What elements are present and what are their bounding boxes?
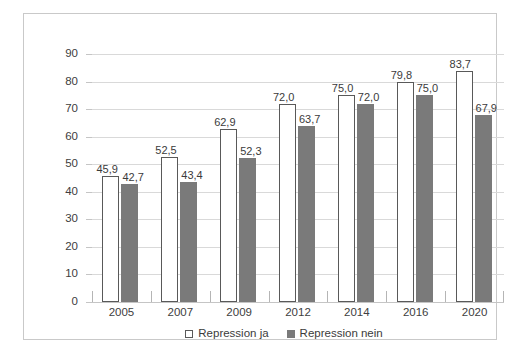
y-axis-tick-label: 60 bbox=[16, 131, 86, 143]
bar-repression-nein[interactable] bbox=[239, 158, 256, 302]
bar-value-label: 79,8 bbox=[391, 70, 412, 81]
chart-legend: Repression jaRepression nein bbox=[47, 327, 520, 340]
bar-value-label: 43,4 bbox=[181, 170, 202, 181]
bar-repression-ja[interactable] bbox=[397, 82, 414, 302]
bar-repression-nein[interactable] bbox=[416, 95, 433, 302]
x-axis-tickmark bbox=[210, 291, 211, 302]
y-tickmark bbox=[86, 302, 92, 303]
bar-repression-ja[interactable] bbox=[338, 95, 355, 302]
y-axis-tick-label: 10 bbox=[16, 269, 86, 281]
legend-label: Repression ja bbox=[198, 327, 268, 340]
y-axis-tick-label: 40 bbox=[16, 186, 86, 198]
bar-repression-ja[interactable] bbox=[279, 104, 296, 302]
bar-value-label: 63,7 bbox=[299, 114, 320, 125]
x-axis-tickmark bbox=[386, 291, 387, 302]
bar-group: 75,072,0 bbox=[327, 54, 386, 302]
bar-value-label: 42,7 bbox=[122, 172, 143, 183]
y-axis-tick-label: 30 bbox=[16, 214, 86, 226]
bar-repression-ja[interactable] bbox=[161, 157, 178, 302]
bar-value-label: 72,0 bbox=[273, 92, 294, 103]
bar-value-label: 67,9 bbox=[476, 103, 497, 114]
bar-repression-nein[interactable] bbox=[298, 126, 315, 302]
plot-area: 45,942,752,543,462,952,372,063,775,072,0… bbox=[92, 54, 504, 302]
x-axis-tickmark bbox=[445, 291, 446, 302]
x-axis-tick-label: 2020 bbox=[462, 306, 488, 319]
bar-group: 72,063,7 bbox=[269, 54, 328, 302]
x-axis-tick-label: 2016 bbox=[403, 306, 429, 319]
bar-repression-nein[interactable] bbox=[357, 104, 374, 302]
x-axis-tick-label: 2012 bbox=[285, 306, 311, 319]
bar-value-label: 83,7 bbox=[450, 59, 471, 70]
x-axis-tick-label: 2007 bbox=[167, 306, 193, 319]
y-axis-tick-label: 70 bbox=[16, 103, 86, 115]
bar-value-label: 75,0 bbox=[417, 83, 438, 94]
x-axis-tickmark bbox=[327, 291, 328, 302]
legend-label: Repression nein bbox=[300, 327, 383, 340]
bar-value-label: 72,0 bbox=[358, 92, 379, 103]
bar-group: 62,952,3 bbox=[210, 54, 269, 302]
y-axis-tick-label: 0 bbox=[16, 296, 86, 308]
bar-repression-ja[interactable] bbox=[102, 176, 119, 302]
bar-group: 83,767,9 bbox=[445, 54, 504, 302]
x-axis-tickmark bbox=[92, 291, 93, 302]
x-axis-tick-label: 2009 bbox=[226, 306, 252, 319]
y-axis-tick-label: 20 bbox=[16, 241, 86, 253]
bar-repression-nein[interactable] bbox=[121, 184, 138, 302]
bar-group: 79,875,0 bbox=[386, 54, 445, 302]
bar-repression-ja[interactable] bbox=[220, 129, 237, 302]
filled-square-swatch bbox=[287, 330, 295, 338]
x-axis-tickmark bbox=[503, 291, 504, 302]
bar-group: 45,942,7 bbox=[92, 54, 151, 302]
bar-repression-ja[interactable] bbox=[456, 71, 473, 302]
chart-frame: 9080706050403020100 45,942,752,543,462,9… bbox=[23, 13, 497, 340]
open-square-swatch bbox=[185, 330, 193, 338]
bar-value-label: 52,5 bbox=[155, 145, 176, 156]
legend-entry[interactable]: Repression nein bbox=[287, 327, 383, 340]
bar-chart-figure: 9080706050403020100 45,942,752,543,462,9… bbox=[0, 0, 520, 360]
bar-repression-nein[interactable] bbox=[180, 182, 197, 302]
legend-entry[interactable]: Repression ja bbox=[185, 327, 268, 340]
y-axis: 9080706050403020100 bbox=[24, 54, 86, 302]
bar-group: 52,543,4 bbox=[151, 54, 210, 302]
gridline bbox=[92, 302, 504, 303]
y-axis-tick-label: 80 bbox=[16, 76, 86, 88]
bar-value-label: 75,0 bbox=[332, 83, 353, 94]
y-axis-tick-label: 50 bbox=[16, 158, 86, 170]
x-axis-tickmark bbox=[269, 291, 270, 302]
bar-value-label: 52,3 bbox=[240, 146, 261, 157]
bar-repression-nein[interactable] bbox=[475, 115, 492, 302]
bar-value-label: 62,9 bbox=[214, 117, 235, 128]
x-axis-tick-label: 2014 bbox=[344, 306, 370, 319]
y-axis-tick-label: 90 bbox=[16, 48, 86, 60]
bar-value-label: 45,9 bbox=[96, 164, 117, 175]
x-axis-tickmark bbox=[151, 291, 152, 302]
x-axis-tick-label: 2005 bbox=[109, 306, 135, 319]
x-axis: 2005200720092012201420162020 bbox=[92, 306, 504, 324]
